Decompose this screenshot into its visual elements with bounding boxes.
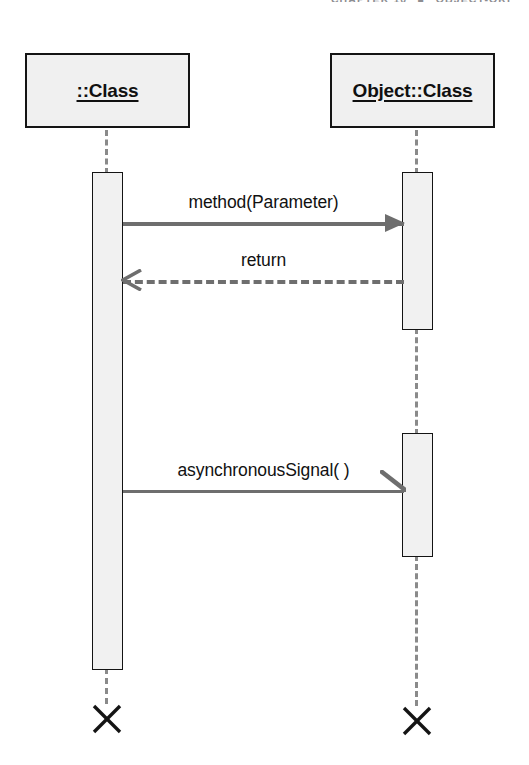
lifeline-box-object-class[interactable]: Object::Class — [330, 53, 495, 128]
activation-bar-class-1 — [92, 172, 123, 670]
lifeline-class — [105, 130, 108, 174]
arrowhead-filled-icon — [385, 214, 405, 232]
message-label-return-message: return — [123, 250, 404, 271]
lifeline-class — [105, 668, 108, 704]
activation-bar-object-class-1 — [402, 172, 433, 330]
lifeline-object-class — [415, 328, 418, 435]
uml-sequence-diagram: ::ClassObject::Classmethod(Parameter)ret… — [0, 0, 529, 765]
message-label-asynchronous-signal: asynchronousSignal( ) — [123, 460, 404, 481]
lifeline-label-object-class: Object::Class — [353, 80, 473, 102]
lifeline-box-class[interactable]: ::Class — [25, 53, 190, 128]
destruction-marker-class — [92, 704, 122, 734]
lifeline-object-class — [415, 555, 418, 706]
destruction-marker-object-class — [402, 706, 432, 736]
lifeline-object-class — [415, 130, 418, 174]
message-line-asynchronous-signal — [123, 490, 404, 493]
message-line-return-message — [123, 280, 404, 284]
message-label-method-call: method(Parameter) — [123, 192, 404, 213]
lifeline-label-class: ::Class — [77, 80, 139, 102]
arrowhead-open-icon — [121, 269, 143, 291]
activation-bar-object-class-2 — [402, 433, 433, 557]
message-line-method-call — [123, 222, 404, 226]
